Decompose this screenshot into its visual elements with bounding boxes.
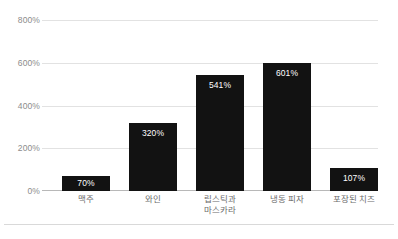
y-tick-label-400: 400%	[4, 102, 40, 111]
y-tick-label-200: 200%	[4, 144, 40, 153]
bar-chart: 800% 600% 400% 200% 0% 70% 320% 541% 601…	[0, 0, 398, 239]
bar-lipstick-mascara[interactable]: 541%	[196, 75, 244, 191]
bar-packaged-cheese[interactable]: 107%	[330, 168, 378, 191]
x-category-label-lipstick-mascara: 립스틱과 마스카라	[184, 194, 256, 216]
bottom-divider	[4, 224, 394, 225]
x-category-label-wine: 와인	[117, 194, 189, 205]
x-category-label-frozen-pizza: 냉동 피자	[251, 194, 323, 205]
y-tick-label-0: 0%	[4, 187, 40, 196]
bars-layer: 70% 320% 541% 601% 107%	[42, 20, 378, 191]
y-tick-label-800: 800%	[4, 16, 40, 25]
bar-wine[interactable]: 320%	[129, 123, 177, 191]
bar-value-label: 107%	[330, 174, 378, 183]
bar-frozen-pizza[interactable]: 601%	[263, 63, 311, 191]
bar-value-label: 70%	[62, 179, 110, 188]
x-category-label-beer: 맥주	[50, 194, 122, 205]
y-axis: 800% 600% 400% 200% 0%	[0, 0, 40, 239]
bar-beer[interactable]: 70%	[62, 176, 110, 191]
x-axis: 맥주 와인 립스틱과 마스카라 냉동 피자 포장된 치즈	[42, 194, 378, 234]
bar-value-label: 320%	[129, 129, 177, 138]
bar-value-label: 541%	[196, 81, 244, 90]
y-tick-label-600: 600%	[4, 59, 40, 68]
x-category-label-packaged-cheese: 포장된 치즈	[318, 194, 390, 205]
bar-value-label: 601%	[263, 69, 311, 78]
